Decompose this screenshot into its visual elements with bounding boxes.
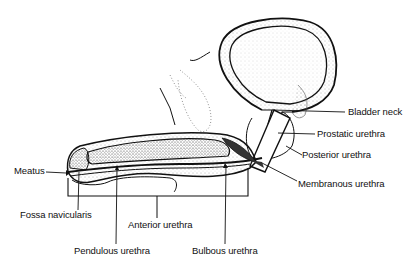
label-membranous-urethra: Membranous urethra [298, 178, 384, 189]
label-pendulous-urethra: Pendulous urethra [74, 245, 150, 256]
label-meatus: Meatus [14, 165, 45, 176]
label-bladder-neck: Bladder neck [348, 106, 402, 117]
penis [68, 133, 265, 192]
pubic-outline [160, 70, 211, 132]
label-bulbous-urethra: Bulbous urethra [192, 245, 258, 256]
bladder [190, 19, 336, 124]
label-anterior-urethra: Anterior urethra [128, 219, 192, 230]
label-posterior-urethra: Posterior urethra [302, 149, 371, 160]
label-prostatic-urethra: Prostatic urethra [317, 128, 385, 139]
urethra-diagram: Bladder neck Prostatic urethra Posterior… [0, 0, 417, 268]
label-fossa-navicularis: Fossa navicularis [20, 209, 92, 220]
